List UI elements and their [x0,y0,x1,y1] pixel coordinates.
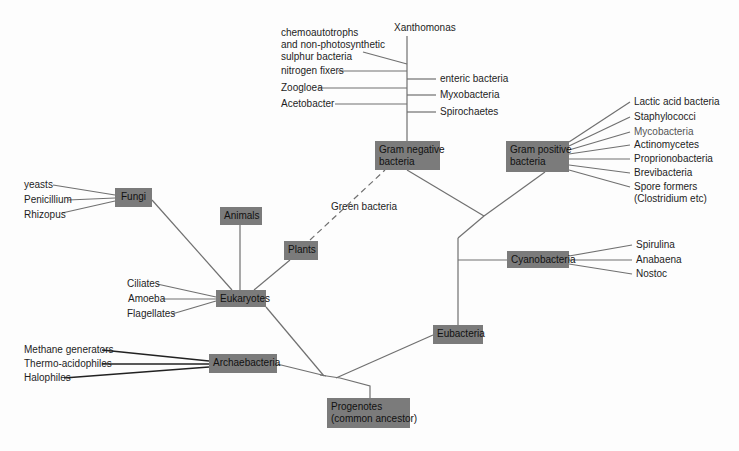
leaf-amoeba: Amoeba [128,293,165,305]
progenotes-label-2: (common ancestor) [331,413,406,425]
node-gram-positive: Gram positive bacteria [506,141,569,172]
leaf-ciliates: Ciliates [127,278,160,290]
leaf-methane-generators: Methane generators [24,344,114,356]
leaf-sulphur-bacteria: sulphur bacteria [281,51,352,63]
leaf-enteric-bacteria: enteric bacteria [440,73,508,85]
leaf-flagellates: Flagellates [127,308,175,320]
gram-negative-label-2: bacteria [379,156,436,168]
leaf-clostridium: (Clostridium etc) [634,193,707,205]
leaf-spirulina: Spirulina [636,239,675,251]
leaf-nitrogen-fixers: nitrogen fixers [281,65,344,77]
leaf-staphylococci: Staphylococci [634,111,696,123]
node-progenotes: Progenotes (common ancestor) [327,398,410,428]
node-archaebacteria: Archaebacteria [209,354,277,373]
leaf-myxobacteria: Myxobacteria [440,89,499,101]
leaf-xanthomonas: Xanthomonas [394,22,456,34]
node-fungi: Fungi [115,188,152,207]
leaf-non-photosynthetic: and non-photosynthetic [281,39,385,51]
phylogenetic-tree-diagram: Fungi Animals Plants Eukaryotes Archaeba… [0,0,739,451]
leaf-acetobacter: Acetobacter [281,98,334,110]
gram-positive-label-2: bacteria [510,156,565,168]
node-gram-negative: Gram negative bacteria [375,141,440,170]
progenotes-label-1: Progenotes [331,401,406,413]
leaf-penicillium: Penicillium [24,194,72,206]
gram-positive-label-1: Gram positive [510,144,565,156]
node-cyanobacteria: Cyanobacteria [507,251,569,268]
gram-negative-label-1: Gram negative [379,144,436,156]
leaf-nostoc: Nostoc [636,268,667,280]
leaf-halophiles: Halophiles [24,372,71,384]
leaf-yeasts: yeasts [24,179,53,191]
leaf-spore-formers: Spore formers [634,181,697,193]
leaf-anabaena: Anabaena [636,254,682,266]
node-eukaryotes: Eukaryotes [216,290,266,307]
leaf-chemoautotrophs: chemoautotrophs [281,27,358,39]
leaf-zoogloea: Zoogloea [281,82,323,94]
leaf-proprionobacteria: Proprionobacteria [634,153,713,165]
leaf-green-bacteria: Green bacteria [331,201,397,213]
leaf-spirochaetes: Spirochaetes [440,106,498,118]
leaf-lactic-acid-bacteria: Lactic acid bacteria [634,96,720,108]
node-plants: Plants [284,241,318,260]
leaf-thermo-acidophiles: Thermo-acidophiles [24,358,112,370]
leaf-brevibacteria: Brevibacteria [634,167,692,179]
node-animals: Animals [220,207,262,225]
leaf-actinomycetes: Actinomycetes [634,139,699,151]
node-eubacteria: Eubacteria [433,325,483,344]
leaf-rhizopus: Rhizopus [24,209,66,221]
leaf-mycobacteria: Mycobacteria [634,126,693,138]
tree-edges [0,0,739,451]
